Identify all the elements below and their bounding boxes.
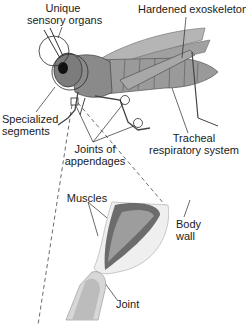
- label-joints-of-appendages: Joints of appendages: [62, 143, 128, 167]
- joint-circle-1: [121, 96, 130, 105]
- label-muscles: Muscles: [62, 192, 112, 204]
- sensory-organ-circle: [39, 36, 69, 66]
- label-joint: Joint: [116, 298, 139, 310]
- label-tracheal-system: Tracheal respiratory system: [144, 132, 244, 156]
- label-hardened-exoskeleton: Hardened exoskeleton: [138, 3, 246, 15]
- label-body-wall: Body wall: [176, 218, 201, 242]
- label-sensory-organs: Unique sensory organs: [27, 2, 99, 26]
- joint-circle-2: [134, 119, 143, 128]
- label-specialized-segments: Specialized segments: [2, 113, 58, 137]
- grasshopper-illustration: [44, 28, 218, 130]
